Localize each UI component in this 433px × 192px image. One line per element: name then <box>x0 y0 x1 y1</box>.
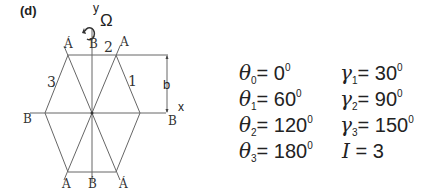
theta-3: θ3= 1800 <box>239 139 313 164</box>
current-value: I = 3 <box>342 139 384 163</box>
vertex-label-top-center: Ḃ <box>89 36 98 51</box>
center-point <box>91 112 94 115</box>
arrowhead-bottom <box>166 109 169 113</box>
theta-0: θ0= 00 <box>239 61 291 86</box>
vertex-label-left: B <box>23 112 32 126</box>
gamma-1: γ1= 300 <box>340 61 403 86</box>
gamma-2: γ2= 900 <box>340 87 403 112</box>
y-axis-label: y <box>93 1 99 15</box>
side-label-2: 2 <box>104 39 113 55</box>
vertex-label-right: B <box>168 114 177 128</box>
hex-edge-left-lower <box>45 113 68 172</box>
side-label-3: 3 <box>47 74 56 90</box>
gamma-3: γ3= 1500 <box>340 113 414 138</box>
arrowhead-top <box>166 55 169 59</box>
panel-label: (d) <box>20 3 37 18</box>
x-axis-label: x <box>178 100 184 114</box>
dimension-b-label: b <box>163 77 170 92</box>
omega-label: Ω <box>100 11 113 30</box>
vertex-label-top-right: A <box>119 35 129 49</box>
hexagon-diagram: (d) y Ω x b 2 1 3 Á Ḃ A B B A Ḃ Á <box>0 0 200 192</box>
vertex-label-bottom-right: Á <box>118 176 128 191</box>
vertex-label-top-left: Á <box>63 36 73 51</box>
theta-2: θ2= 1200 <box>239 113 313 138</box>
side-label-1: 1 <box>128 73 137 89</box>
vertex-label-bottom-center: Ḃ <box>88 176 97 191</box>
hex-edge-right-lower <box>116 113 140 172</box>
theta-1: θ1= 600 <box>239 87 302 112</box>
vertex-label-bottom-left: A <box>61 177 71 191</box>
